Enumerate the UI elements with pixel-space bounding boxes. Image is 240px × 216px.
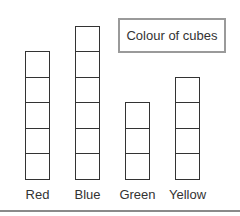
cube [25,51,50,78]
cube [25,77,50,104]
cube [25,153,50,180]
cube [175,153,200,180]
cube [175,128,200,155]
category-label-yellow: Yellow [158,187,218,202]
chart-title: Colour of cubes [118,18,226,53]
bar-yellow [175,78,200,180]
cube [75,153,100,180]
cube [125,153,150,180]
cube [25,102,50,129]
bar-green [125,104,150,181]
cube [175,77,200,104]
cube [75,51,100,78]
cube [75,128,100,155]
cube [75,77,100,104]
bar-red [25,53,50,181]
cube [75,102,100,129]
bar-blue [75,27,100,180]
cube [75,26,100,53]
cube [125,102,150,129]
cube [175,102,200,129]
cube [25,128,50,155]
cube [125,128,150,155]
